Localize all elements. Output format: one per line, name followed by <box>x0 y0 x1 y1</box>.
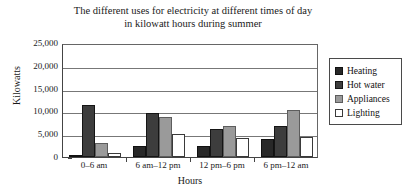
legend-item[interactable]: Hot water <box>335 78 397 91</box>
bar-chart-figure: The different uses for electricity at di… <box>0 0 407 195</box>
x-tick-label: 6 pm–12 am <box>254 160 318 170</box>
bar <box>108 153 121 157</box>
bar <box>82 105 95 157</box>
y-axis-tick-labels: 25,00020,00015,00010,0005,0000 <box>10 0 58 195</box>
chart-title-line-1: The different uses for electricity at di… <box>28 5 358 18</box>
x-tick-mark <box>254 158 255 162</box>
bar <box>261 139 274 157</box>
bar <box>95 143 108 157</box>
legend-swatch-icon <box>335 95 343 103</box>
bar <box>172 134 185 157</box>
plot-area <box>62 44 318 158</box>
legend-item[interactable]: Heating <box>335 64 397 77</box>
chart-title: The different uses for electricity at di… <box>28 5 358 30</box>
y-tick-label: 0 <box>14 153 58 162</box>
x-tick-label: 6 am–12 pm <box>126 160 190 170</box>
legend-label: Heating <box>347 66 377 76</box>
bar <box>287 110 300 157</box>
bar-group <box>127 45 191 157</box>
x-tick-mark <box>190 158 191 162</box>
bar <box>69 155 82 157</box>
legend-label: Hot water <box>347 80 385 90</box>
legend-swatch-icon <box>335 109 343 117</box>
legend-item[interactable]: Appliances <box>335 92 397 105</box>
bar <box>300 137 313 157</box>
bar <box>223 126 236 157</box>
bar <box>236 138 249 157</box>
legend-swatch-icon <box>335 67 343 75</box>
y-tick-label: 10,000 <box>14 107 58 116</box>
x-axis-title: Hours <box>62 175 318 186</box>
x-tick-mark <box>126 158 127 162</box>
x-axis-tick-labels: 0–6 am6 am–12 pm12 pm–6 pm6 pm–12 am <box>62 160 318 176</box>
y-tick-label: 15,000 <box>14 85 58 94</box>
legend-swatch-icon <box>335 81 343 89</box>
y-tick-label: 20,000 <box>14 62 58 71</box>
chart-title-line-2: in kilowatt hours during summer <box>28 18 358 31</box>
x-tick-label: 12 pm–6 pm <box>190 160 254 170</box>
bar-group <box>255 45 319 157</box>
y-tick-mark <box>68 158 72 159</box>
x-tick-label: 0–6 am <box>62 160 126 170</box>
bar <box>159 117 172 157</box>
bar <box>210 129 223 157</box>
bar <box>274 126 287 157</box>
legend-item[interactable]: Lighting <box>335 106 397 119</box>
bar <box>146 113 159 157</box>
bar-group <box>63 45 127 157</box>
y-tick-label: 25,000 <box>14 39 58 48</box>
y-tick-label: 5,000 <box>14 130 58 139</box>
legend-label: Appliances <box>347 94 390 104</box>
legend-label: Lighting <box>347 108 380 118</box>
bar <box>133 146 146 157</box>
chart-legend: HeatingHot waterAppliancesLighting <box>329 58 402 125</box>
bar <box>197 146 210 157</box>
bar-group <box>191 45 255 157</box>
